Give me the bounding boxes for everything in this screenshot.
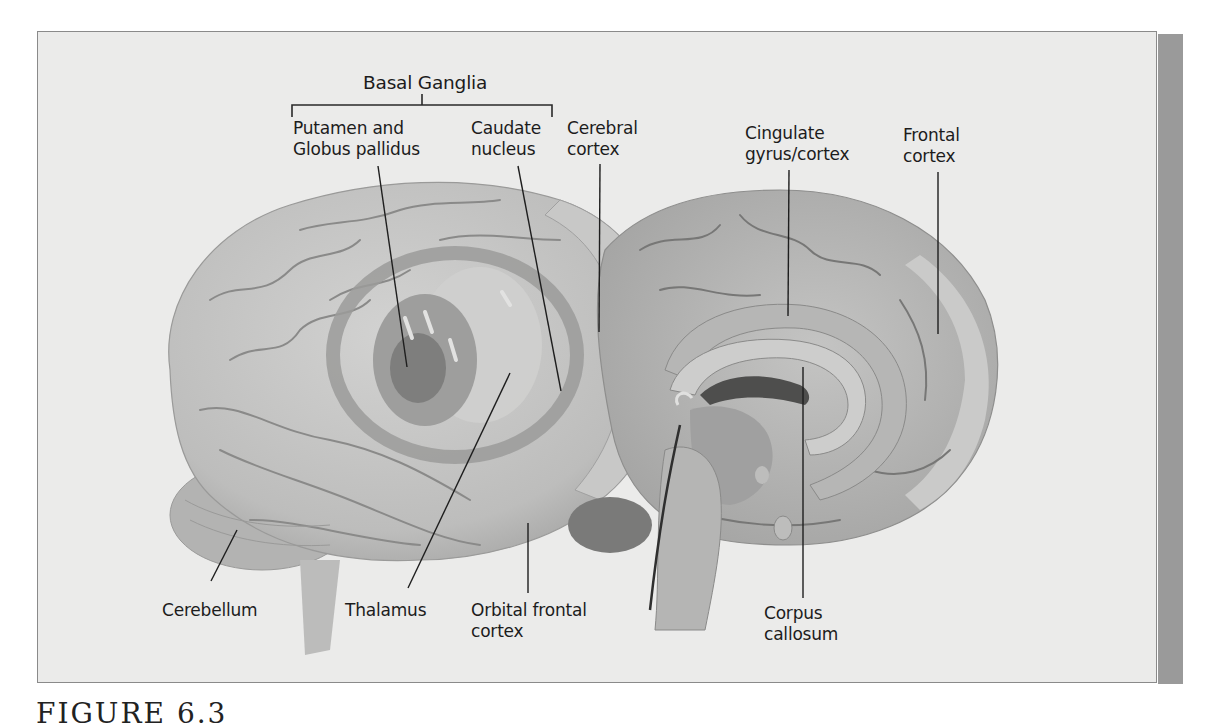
label-thalamus: Thalamus [345,600,426,621]
left-brain [169,182,661,655]
figure-caption: FIGURE 6.3 [36,700,227,727]
label-orbital-frontal-cortex: Orbital frontal cortex [471,600,587,642]
label-cerebral-cortex: Cerebral cortex [567,118,638,160]
label-frontal-cortex: Frontal cortex [903,125,960,167]
label-basal-ganglia: Basal Ganglia [363,72,487,93]
label-putamen-globus-pallidus: Putamen and Globus pallidus [293,118,420,160]
label-corpus-callosum: Corpus callosum [764,603,838,645]
basal-ganglia-bracket [292,94,552,117]
label-cerebellum: Cerebellum [162,600,257,621]
label-cingulate-gyrus-cortex: Cingulate gyrus/cortex [745,123,849,165]
label-caudate-nucleus: Caudate nucleus [471,118,541,160]
